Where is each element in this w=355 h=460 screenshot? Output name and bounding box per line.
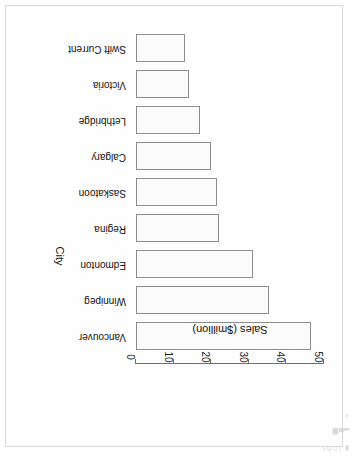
bar: [136, 70, 189, 98]
bar: [136, 214, 219, 242]
rotated-content-wrapper: ▮ 10:03 ▂▄▆ ◗ 01020304050 VancouverWinni…: [0, 0, 355, 460]
value-axis-title: Sales ($million): [105, 324, 355, 336]
category-axis-label: Calgary: [92, 152, 126, 163]
screenshot-canvas: ▮ 10:03 ▂▄▆ ◗ 01020304050 VancouverWinni…: [0, 0, 355, 460]
category-axis-label: Winnipeg: [84, 296, 126, 307]
bar: [136, 250, 253, 278]
bar: [136, 286, 269, 314]
bar: [136, 34, 185, 62]
bar: [136, 178, 217, 206]
category-axis-label: Regina: [94, 224, 126, 235]
category-axis-label: Lethbridge: [79, 116, 126, 127]
value-axis-tick-label: 0: [125, 344, 136, 370]
category-axis-label: Edmonton: [80, 260, 126, 271]
category-axis-title: City: [54, 247, 66, 266]
category-axis-label: Saskatoon: [79, 188, 126, 199]
value-axis-tick-label: 50: [313, 344, 324, 370]
category-axis-label: Swift Current: [68, 44, 126, 55]
category-axis-label: Victoria: [93, 80, 126, 91]
bar: [136, 106, 200, 134]
bar-chart-plot: 01020304050 VancouverWinnipegEdmontonReg…: [0, 0, 355, 460]
bar: [136, 142, 211, 170]
